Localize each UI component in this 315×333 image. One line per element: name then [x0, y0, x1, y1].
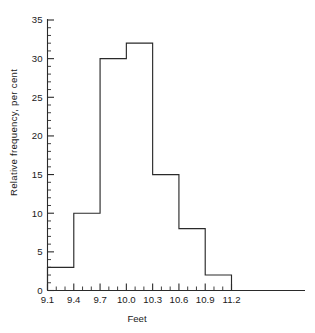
y-tick-label: 5 — [37, 246, 42, 257]
x-tick-label: 9.4 — [67, 294, 81, 305]
x-tick-label: 10.3 — [143, 294, 162, 305]
x-tick-label: 11.2 — [223, 294, 241, 305]
y-tick-label: 15 — [32, 169, 43, 180]
x-tick-label: 10.9 — [196, 294, 215, 305]
y-tick-label: 25 — [32, 92, 43, 103]
y-tick-label: 20 — [32, 130, 43, 141]
x-axis-title: Feet — [127, 313, 147, 324]
histogram-chart: 05101520253035 9.19.49.710.010.310.610.9… — [0, 0, 315, 333]
x-tick-label: 10.0 — [117, 294, 136, 305]
x-tick-label: 9.7 — [93, 294, 106, 305]
chart-canvas: 05101520253035 9.19.49.710.010.310.610.9… — [0, 0, 315, 333]
y-tick-label: 30 — [32, 53, 43, 64]
y-tick-label: 35 — [32, 14, 43, 25]
y-axis-title: Relative frequency, per cent — [8, 69, 19, 196]
x-tick-label: 10.6 — [170, 294, 189, 305]
y-tick-label: 10 — [32, 208, 43, 219]
x-tick-label: 9.1 — [41, 294, 54, 305]
